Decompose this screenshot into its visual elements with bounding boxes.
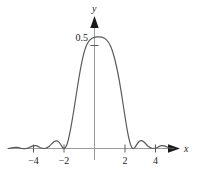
y-value-label-0.5: 0.5 [76, 32, 89, 43]
y-axis-arrowhead [90, 16, 98, 28]
plot-canvas: y x 0.5 −4 −2 2 4 [0, 0, 197, 176]
x-axis-label: x [183, 143, 189, 154]
x-tick-label-4: 4 [153, 155, 158, 166]
function-plot-figure: y x 0.5 −4 −2 2 4 [0, 0, 197, 176]
y-axis-label: y [91, 3, 97, 14]
function-curve-main [8, 37, 174, 149]
x-tick-label-minus2: −2 [59, 155, 70, 166]
x-tick-label-2: 2 [123, 155, 128, 166]
x-tick-label-minus4: −4 [28, 155, 39, 166]
